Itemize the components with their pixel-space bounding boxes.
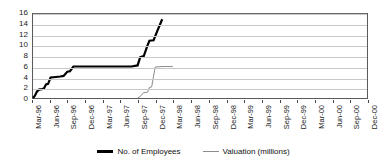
x-axis-tick-label: Mar-97	[106, 105, 114, 129]
legend-swatch-valuation-icon	[203, 151, 219, 152]
x-axis-tick-label: Dec-96	[88, 105, 96, 129]
x-axis-tick	[156, 100, 157, 103]
x-axis-tick-label: Mar-99	[247, 105, 255, 129]
y-axis-tick-label: 2	[0, 84, 28, 92]
x-axis-tick	[333, 100, 334, 103]
y-axis-tick-label: 16	[0, 9, 28, 17]
gridline-horizontal	[33, 89, 367, 90]
x-axis-tick	[50, 100, 51, 103]
x-axis-tick-label: Jun-96	[53, 105, 61, 128]
x-axis-tick-label: Jun-00	[336, 105, 344, 128]
x-axis-labels: Mar-96Jun-96Sep-96Dec-96Mar-97Jun-97Sep-…	[32, 100, 368, 140]
gridline-horizontal	[33, 14, 367, 15]
x-axis-tick-label: Mar-96	[35, 105, 43, 129]
x-axis-tick-label: Jun-98	[194, 105, 202, 128]
x-axis-tick	[120, 100, 121, 103]
x-axis-tick	[262, 100, 263, 103]
x-axis-tick	[350, 100, 351, 103]
y-axis-labels: 0246810121416	[0, 9, 28, 101]
x-axis-tick	[244, 100, 245, 103]
chart-legend: No. of Employees Valuation (millions)	[0, 143, 387, 159]
x-axis-tick-label: Dec-99	[300, 105, 308, 129]
legend-label-employees: No. of Employees	[117, 147, 180, 156]
y-axis-tick-label: 4	[0, 74, 28, 82]
x-axis-tick	[32, 100, 33, 103]
chart-container: 0246810121416 Mar-96Jun-96Sep-96Dec-96Ma…	[0, 0, 387, 164]
series-lines	[33, 14, 367, 98]
x-axis-tick-label: Dec-98	[230, 105, 238, 129]
x-axis-tick	[209, 100, 210, 103]
x-axis-tick-label: Mar-00	[318, 105, 326, 129]
y-axis-tick-label: 6	[0, 63, 28, 71]
x-axis-tick-label: Jun-99	[265, 105, 273, 128]
x-axis-tick	[138, 100, 139, 103]
x-axis-tick-label: Sep-98	[212, 105, 220, 129]
x-axis-tick-label: Mar-98	[176, 105, 184, 129]
x-axis-tick	[67, 100, 68, 103]
y-axis-tick-label: 8	[0, 52, 28, 60]
y-axis-tick-label: 14	[0, 20, 28, 28]
y-axis-tick-label: 12	[0, 31, 28, 39]
x-axis-tick-label: Sep-96	[70, 105, 78, 129]
series-line-valuation	[138, 67, 173, 99]
series-line-employees	[33, 19, 162, 98]
x-axis-tick	[103, 100, 104, 103]
x-axis-tick	[227, 100, 228, 103]
x-axis-tick	[85, 100, 86, 103]
x-axis-tick-label: Dec-97	[159, 105, 167, 129]
y-axis-tick-label: 10	[0, 41, 28, 49]
gridline-horizontal	[33, 36, 367, 37]
x-axis-tick-label: Sep-00	[353, 105, 361, 129]
x-axis-tick	[297, 100, 298, 103]
x-axis-tick-label: Jun-97	[123, 105, 131, 128]
x-axis-tick	[368, 100, 369, 103]
gridline-horizontal	[33, 46, 367, 47]
legend-label-valuation: Valuation (millions)	[223, 147, 290, 156]
legend-item-valuation: Valuation (millions)	[203, 147, 290, 156]
x-axis-tick	[315, 100, 316, 103]
gridline-horizontal	[33, 79, 367, 80]
x-axis-tick-label: Sep-97	[141, 105, 149, 129]
x-axis-tick	[191, 100, 192, 103]
legend-swatch-employees-icon	[97, 150, 113, 153]
gridline-horizontal	[33, 25, 367, 26]
gridline-horizontal	[33, 68, 367, 69]
x-axis-tick-label: Sep-99	[283, 105, 291, 129]
plot-area	[32, 13, 368, 99]
x-axis-tick	[280, 100, 281, 103]
x-axis-tick-label: Dec-00	[371, 105, 379, 129]
gridline-horizontal	[33, 57, 367, 58]
x-axis-tick	[173, 100, 174, 103]
legend-item-employees: No. of Employees	[97, 147, 180, 156]
y-axis-tick-label: 0	[0, 95, 28, 103]
